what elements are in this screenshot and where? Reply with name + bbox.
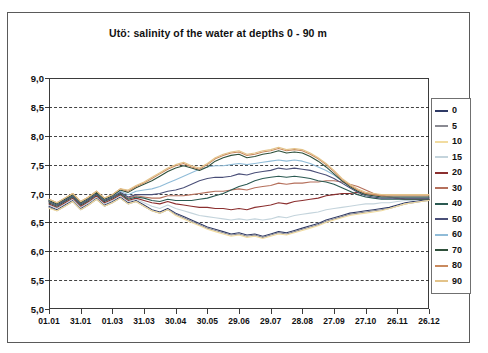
legend-item[interactable]: 80 xyxy=(435,258,468,274)
y-axis-tick-label: 6,0 xyxy=(31,246,44,257)
x-axis-tick-mark xyxy=(176,309,177,314)
x-axis-tick-mark xyxy=(49,309,50,314)
legend-item-label: 30 xyxy=(452,184,462,193)
legend-item[interactable]: 0 xyxy=(435,103,468,119)
legend-color-swatch xyxy=(435,280,448,282)
y-axis-tick-label: 5,5 xyxy=(31,275,44,286)
y-axis-tick-label: 7,5 xyxy=(31,159,44,170)
legend-item-label: 0 xyxy=(452,106,457,115)
legend-color-swatch xyxy=(435,110,448,112)
x-axis-tick-mark xyxy=(271,309,272,314)
legend-item[interactable]: 40 xyxy=(435,196,468,212)
legend-item-label: 10 xyxy=(452,137,462,146)
x-axis-tick-label: 27.10 xyxy=(355,316,376,326)
legend-color-swatch xyxy=(435,125,448,127)
x-axis-tick-label: 30.04 xyxy=(165,316,186,326)
x-axis-tick-mark xyxy=(366,309,367,314)
legend-color-swatch xyxy=(435,249,448,251)
x-axis-tick-label: 26.11 xyxy=(387,316,408,326)
x-axis-tick-mark xyxy=(207,309,208,314)
legend-item[interactable]: 70 xyxy=(435,243,468,259)
x-axis-tick-mark xyxy=(397,309,398,314)
x-axis-tick-label: 31.03 xyxy=(133,316,154,326)
legend-item[interactable]: 20 xyxy=(435,165,468,181)
x-axis-tick-label: 01.01 xyxy=(38,316,59,326)
legend-item-label: 80 xyxy=(452,261,462,270)
y-axis-tick-label: 7,0 xyxy=(31,188,44,199)
legend-color-swatch xyxy=(435,187,448,189)
legend-item[interactable]: 5 xyxy=(435,119,468,135)
chart-figure: Utö: salinity of the water at depths 0 -… xyxy=(7,12,470,343)
x-axis-tick-mark xyxy=(429,309,430,314)
series-layer xyxy=(49,78,429,309)
legend-color-swatch xyxy=(435,156,448,158)
legend-item-label: 70 xyxy=(452,246,462,255)
legend-item[interactable]: 30 xyxy=(435,181,468,197)
page-title: Utö: salinity of the water at depths 0 -… xyxy=(8,27,428,39)
legend-item-label: 5 xyxy=(452,122,457,131)
x-axis-tick-label: 26.12 xyxy=(418,316,439,326)
series-line xyxy=(49,148,429,202)
legend-color-swatch xyxy=(435,203,448,205)
x-axis-tick-label: 29.06 xyxy=(228,316,249,326)
legend-item-label: 40 xyxy=(452,199,462,208)
legend-color-swatch xyxy=(435,218,448,220)
series-line xyxy=(49,151,429,204)
x-axis-tick-label: 29.07 xyxy=(260,316,281,326)
legend-color-swatch xyxy=(435,141,448,143)
legend-item-label: 20 xyxy=(452,168,462,177)
y-axis-tick-label: 8,0 xyxy=(31,130,44,141)
y-axis-tick-label: 6,5 xyxy=(31,217,44,228)
y-axis-tick-label: 9,0 xyxy=(31,73,44,84)
x-axis-tick-label: 31.01 xyxy=(70,316,91,326)
legend-item[interactable]: 15 xyxy=(435,150,468,166)
legend-color-swatch xyxy=(435,265,448,267)
x-axis-tick-mark xyxy=(81,309,82,314)
legend-item-label: 60 xyxy=(452,230,462,239)
legend-color-swatch xyxy=(435,172,448,174)
legend-item[interactable]: 60 xyxy=(435,227,468,243)
legend-item[interactable]: 50 xyxy=(435,212,468,228)
y-axis-tick-label: 8,5 xyxy=(31,101,44,112)
legend-item[interactable]: 90 xyxy=(435,274,468,290)
plot-area: 9,08,58,07,57,06,56,05,55,0 01.0131.0101… xyxy=(49,78,429,309)
x-axis-tick-mark xyxy=(144,309,145,314)
x-axis-tick-mark xyxy=(334,309,335,314)
legend-item-label: 90 xyxy=(452,277,462,286)
chart-legend: 0510152030405060708090 xyxy=(431,98,471,294)
x-axis-tick-mark xyxy=(302,309,303,314)
x-axis-tick-mark xyxy=(239,309,240,314)
y-axis-tick-label: 5,0 xyxy=(31,304,44,315)
legend-item-label: 50 xyxy=(452,215,462,224)
legend-color-swatch xyxy=(435,234,448,236)
legend-item[interactable]: 10 xyxy=(435,134,468,150)
legend-item-label: 15 xyxy=(452,153,462,162)
x-axis-tick-label: 27.09 xyxy=(323,316,344,326)
x-axis-tick-label: 28.08 xyxy=(292,316,313,326)
x-axis-tick-label: 30.05 xyxy=(197,316,218,326)
x-axis-tick-mark xyxy=(112,309,113,314)
x-axis-tick-label: 01.03 xyxy=(102,316,123,326)
